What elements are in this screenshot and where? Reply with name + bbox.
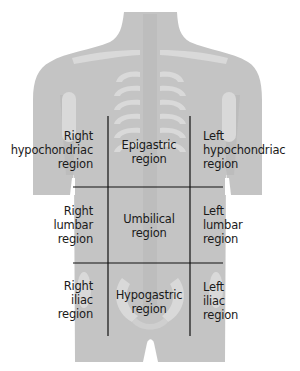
label-epigastric: Epigastric region [108, 138, 190, 166]
label-hypogastric: Hypogastric region [108, 288, 190, 316]
label-left-hypochondriac: Left hypochondriac region [203, 129, 285, 171]
label-right-lumbar: Right lumbar region [53, 204, 93, 246]
label-left-iliac: Left iliac region [203, 280, 238, 322]
label-left-lumbar: Left lumbar region [203, 204, 243, 246]
label-umbilical: Umbilical region [108, 212, 190, 240]
label-right-iliac: Right iliac region [58, 279, 93, 321]
label-right-hypochondriac: Right hypochondriac region [11, 129, 93, 171]
